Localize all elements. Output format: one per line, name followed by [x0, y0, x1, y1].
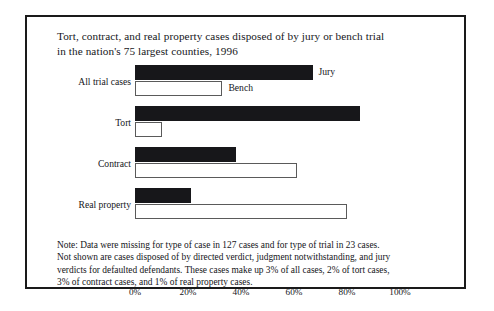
- figure-note-line-3: verdicts for defaulted defendants. These…: [57, 264, 447, 276]
- figure-title: Tort, contract, and real property cases …: [57, 29, 442, 59]
- bar-jury-tort: [135, 106, 360, 121]
- bar-jury-contract: [135, 147, 236, 162]
- bar-group-tort: Tort: [27, 106, 464, 144]
- figure-note-line-1: Note: Data were missing for type of case…: [57, 239, 447, 251]
- bar-jury-all-trial-cases: [135, 65, 313, 80]
- series-tag-jury: Jury: [319, 66, 336, 77]
- figure-note-line-2: Not shown are cases disposed of by direc…: [57, 251, 447, 263]
- figure-title-line-2: in the nation's 75 largest counties, 199…: [57, 44, 442, 59]
- bar-group-all-trial-cases: All trial cases Jury Bench: [27, 65, 464, 103]
- bar-group-real-property: Real property: [27, 188, 464, 226]
- figure-frame: Tort, contract, and real property cases …: [25, 15, 466, 289]
- bar-bench-contract: [135, 163, 297, 178]
- category-label-real-property: Real property: [79, 199, 131, 210]
- series-tag-bench: Bench: [228, 82, 253, 93]
- category-label-all-trial-cases: All trial cases: [78, 76, 131, 87]
- figure-title-line-1: Tort, contract, and real property cases …: [57, 29, 442, 44]
- bar-chart-plot-area: All trial cases Jury Bench Tort Contract: [27, 65, 464, 240]
- figure-note: Note: Data were missing for type of case…: [57, 239, 447, 289]
- bar-jury-real-property: [135, 188, 191, 203]
- bar-group-contract: Contract: [27, 147, 464, 185]
- bar-bench-tort: [135, 122, 162, 137]
- bar-bench-all-trial-cases: [135, 81, 222, 96]
- x-axis-tick-labels: 0% 20% 40% 60% 80% 100%: [27, 287, 464, 301]
- figure-note-line-4: 3% of contract cases, and 1% of real pro…: [57, 276, 447, 288]
- category-label-tort: Tort: [115, 117, 131, 128]
- bar-bench-real-property: [135, 204, 347, 219]
- category-label-contract: Contract: [98, 158, 131, 169]
